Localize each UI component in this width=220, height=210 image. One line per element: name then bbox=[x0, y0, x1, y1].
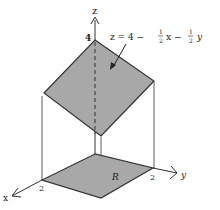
x-axis-arrow-icon bbox=[12, 188, 21, 197]
svg-text:2: 2 bbox=[189, 37, 193, 44]
x-tick-label: 2 bbox=[39, 184, 44, 193]
region-r bbox=[42, 154, 153, 198]
svg-text:1: 1 bbox=[189, 28, 193, 35]
equation-label: z = 4 − 1 2 x − 1 2 y bbox=[110, 28, 203, 44]
3d-plane-diagram: z 4 R x 2 y 2 z = 4 − 1 2 x − 1 2 y bbox=[0, 0, 220, 210]
y-tick-label: 2 bbox=[150, 173, 155, 182]
z-axis-label: z bbox=[92, 5, 97, 16]
svg-text:y: y bbox=[196, 32, 203, 42]
x-axis bbox=[12, 180, 42, 196]
svg-text:2: 2 bbox=[159, 37, 163, 44]
svg-text:x −: x − bbox=[166, 32, 181, 42]
svg-text:1: 1 bbox=[159, 28, 163, 35]
svg-text:z = 4 −: z = 4 − bbox=[110, 32, 144, 42]
y-axis-label: y bbox=[180, 170, 187, 180]
x-axis-label: x bbox=[3, 193, 8, 203]
z-tick-label: 4 bbox=[85, 33, 91, 43]
region-r-label: R bbox=[111, 172, 119, 182]
plane-surface bbox=[44, 40, 154, 136]
